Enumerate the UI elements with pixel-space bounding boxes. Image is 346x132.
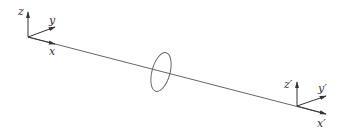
right-coordinate-frame: z′ y′ x′ — [283, 78, 327, 130]
left-x-arrow — [28, 37, 55, 44]
diagram-canvas: z y x z′ y′ x′ — [0, 0, 346, 132]
right-y-label: y′ — [317, 82, 327, 95]
left-z-label: z — [17, 5, 24, 18]
ring-ellipse — [147, 50, 175, 93]
left-y-axis — [28, 27, 55, 37]
right-x-label: x′ — [317, 117, 326, 130]
right-x-arrow — [297, 106, 326, 114]
right-z-label: z′ — [283, 78, 293, 91]
left-coordinate-frame: z y x — [17, 5, 56, 58]
left-x-label: x — [49, 45, 56, 58]
connecting-line — [28, 37, 326, 114]
left-y-label: y — [48, 14, 56, 27]
right-y-axis — [297, 96, 326, 106]
